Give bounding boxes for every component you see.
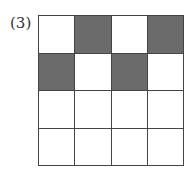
grid-cell-empty [75, 91, 111, 129]
grid-cell-shaded [112, 54, 148, 92]
grid-cell-shaded [148, 16, 184, 54]
shaded-grid [38, 15, 184, 166]
grid-cell-shaded [39, 54, 75, 92]
grid-cell-empty [148, 129, 184, 167]
grid-cell-empty [75, 54, 111, 92]
grid-cell-empty [112, 129, 148, 167]
problem-number-label: (3) [10, 14, 31, 32]
grid-cell-shaded [75, 16, 111, 54]
grid-cell-empty [39, 129, 75, 167]
grid-cell-empty [39, 16, 75, 54]
grid-cell-empty [75, 129, 111, 167]
grid-cell-empty [112, 91, 148, 129]
grid-cell-empty [148, 54, 184, 92]
grid-cell-empty [112, 16, 148, 54]
grid-cell-empty [39, 91, 75, 129]
grid-cell-empty [148, 91, 184, 129]
